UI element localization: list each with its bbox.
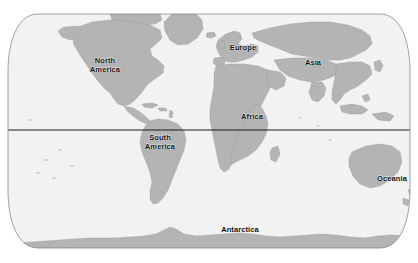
island-speck xyxy=(70,165,74,167)
island-speck xyxy=(43,159,49,161)
island-speck xyxy=(299,117,302,119)
island-speck xyxy=(52,177,56,179)
island-speck xyxy=(329,139,332,141)
world-map-figure: North America South America Europe Afric… xyxy=(0,0,418,263)
map-body xyxy=(0,0,418,263)
island-speck xyxy=(28,119,32,121)
island-speck xyxy=(58,149,62,151)
world-map-svg xyxy=(0,0,418,263)
island-speck xyxy=(317,125,320,127)
island-speck xyxy=(36,172,40,174)
